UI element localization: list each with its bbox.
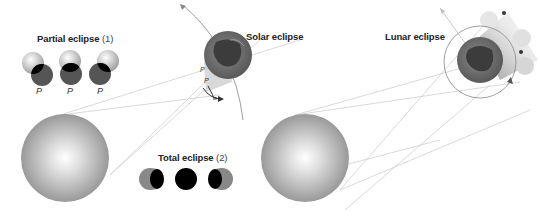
arrow-head-icon: [218, 96, 224, 102]
partial-p-label-1: P: [36, 86, 42, 96]
partial-eclipse-number: (1): [102, 33, 113, 44]
earth-solar: [204, 31, 252, 79]
partial-eclipse-title: Partial eclipse (1): [37, 33, 113, 44]
p-label: P: [204, 77, 209, 84]
partial-p-label-3: P: [97, 86, 103, 96]
partial-eclipse-label: Partial eclipse: [37, 33, 99, 44]
earth-lunar: [457, 37, 503, 83]
partial-eclipse-moons: [22, 50, 119, 86]
sun: [261, 114, 349, 202]
axis-arrow-icon: [440, 8, 445, 14]
total-eclipse-label: Total eclipse: [158, 152, 214, 163]
partial-moon-2: [59, 50, 82, 85]
partial-moon-1: [22, 52, 53, 86]
partial-p-label-2: P: [67, 86, 73, 96]
total-eclipse-moons: [139, 168, 233, 190]
partial-moon-3: [89, 50, 119, 85]
total-eclipse-number: (2): [216, 152, 227, 163]
lunar-eclipse-title: Lunar eclipse: [385, 31, 445, 42]
solar-eclipse-title: Solar eclipse: [246, 31, 303, 42]
total-eclipse-title: Total eclipse (2): [158, 152, 227, 163]
sun: [21, 114, 109, 202]
p-label: P: [200, 66, 205, 73]
